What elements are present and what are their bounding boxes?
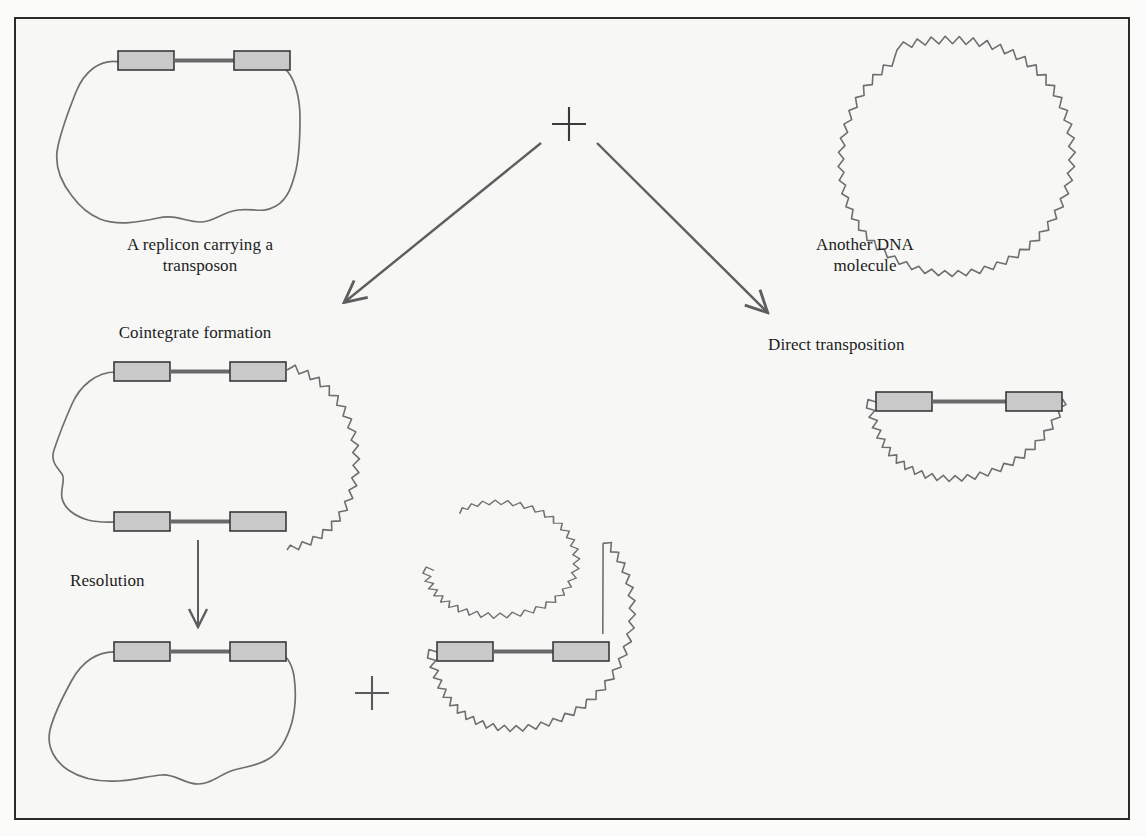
cointegrate-box-top-left: [114, 362, 170, 381]
label-resolution: Resolution: [70, 570, 210, 591]
cointegrate-box-top-right: [230, 362, 286, 381]
node-replicon-carrying-transposon: [57, 51, 300, 223]
direct-product-box-right: [1006, 392, 1062, 411]
cointegrate-wavy-right-loop: [287, 365, 360, 550]
label-direct-transposition: Direct transposition: [768, 334, 998, 355]
resolved-replicon-box-right: [230, 642, 286, 661]
arrow-to-direct-transposition: [597, 143, 766, 311]
resolved-replicon-strand-smooth: [49, 651, 295, 784]
replicon-strand-smooth: [57, 60, 300, 223]
node-resolved-replicon: [49, 642, 295, 784]
node-direct-transposition-product: [867, 392, 1067, 482]
node-cointegrate: [53, 362, 360, 550]
resolved-target-strand-wavy: [423, 500, 580, 618]
cointegrate-box-bottom-right: [230, 512, 286, 531]
node-resolved-target: [423, 500, 636, 780]
cointegrate-smooth-left-loop: [53, 372, 116, 522]
combination-operator: [552, 107, 586, 141]
resolved-target-wavy-loop: [428, 543, 636, 732]
cointegrate-box-bottom-left: [114, 512, 170, 531]
transposon-box-right: [234, 51, 290, 70]
figure-page: A replicon carrying a transposon Another…: [0, 0, 1146, 836]
resolved-replicon-box-left: [114, 642, 170, 661]
label-cointegrate-formation: Cointegrate formation: [85, 322, 305, 343]
resolved-target-box-left: [437, 642, 493, 661]
transposon-box-left: [118, 51, 174, 70]
label-another-dna-molecule: Another DNA molecule: [760, 234, 970, 277]
direct-product-box-left: [876, 392, 932, 411]
label-replicon-carrying-transposon: A replicon carrying a transposon: [80, 234, 320, 277]
arrow-to-cointegrate: [346, 143, 541, 301]
transposition-diagram: [0, 0, 1146, 836]
resolved-target-box-right: [553, 642, 609, 661]
bottom-plus-operator: [355, 676, 389, 710]
